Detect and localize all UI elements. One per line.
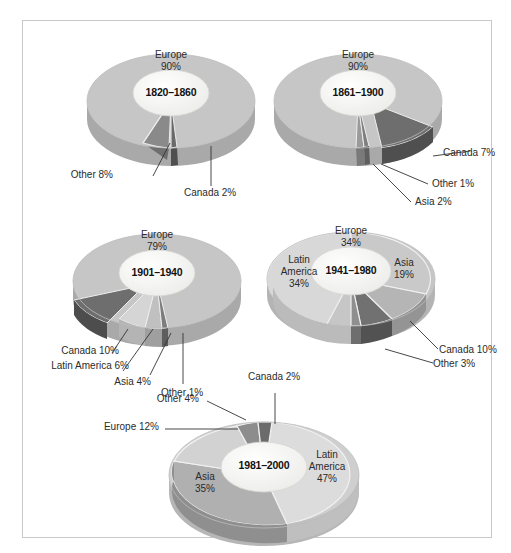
slice-label-europe-name-3: Europe	[141, 229, 173, 240]
slice-label-latin-l2-5: America	[309, 461, 346, 472]
pie-period-label-5: 1981–2000	[222, 459, 306, 471]
slice-label-europe-2: Europe 90%	[324, 49, 392, 73]
slice-label-canada-2: Canada 7%	[443, 147, 495, 159]
slice-label-europe-4: Europe 34%	[317, 225, 385, 249]
pie-period-label-3: 1901–1940	[119, 266, 195, 278]
slice-label-canada-4: Canada 10%	[439, 344, 497, 356]
slice-label-latin-l1-5: Latin	[316, 449, 338, 460]
slice-label-canada-1: Canada 2%	[184, 187, 236, 199]
slice-label-other-2: Other 1%	[432, 178, 474, 190]
slice-label-asia-5: Asia 35%	[181, 471, 229, 495]
slice-label-latin-america-4: Latin America 34%	[271, 254, 327, 290]
pie-side-latin-america	[327, 324, 351, 344]
figure-frame: 1820–1860 Europe 90% Other 8% Canada 2%	[22, 20, 492, 538]
slice-label-europe-pct-4: 34%	[341, 237, 361, 248]
slice-label-asia-2: Asia 2%	[415, 196, 452, 208]
slice-label-other-4: Other 3%	[433, 358, 475, 370]
slice-label-europe-5: Europe 12%	[63, 421, 159, 433]
slice-label-europe-pct-1: 90%	[161, 61, 181, 72]
slice-label-asia-name-4: Asia	[394, 257, 413, 268]
slice-label-latin-pct-4: 34%	[289, 278, 309, 289]
slice-label-europe-pct-2: 90%	[348, 61, 368, 72]
figure-page: 1820–1860 Europe 90% Other 8% Canada 2%	[0, 0, 511, 553]
slice-label-latin-l2-4: America	[281, 266, 318, 277]
slice-label-latin-pct-5: 47%	[317, 473, 337, 484]
slice-label-latin-america-3: Latin America 6%	[23, 360, 129, 372]
slice-label-europe-name-4: Europe	[335, 225, 367, 236]
slice-label-canada-3: Canada 10%	[23, 345, 119, 357]
slice-label-europe-1: Europe 90%	[137, 49, 205, 73]
pie-period-label-1: 1820–1860	[133, 86, 209, 98]
slice-label-latin-america-5: Latin America 47%	[296, 449, 358, 485]
pie-period-label-2: 1861–1900	[320, 86, 396, 98]
leader-lines-chart-2	[323, 126, 503, 221]
slice-label-europe-name-1: Europe	[155, 49, 187, 60]
slice-label-canada-5: Canada 2%	[248, 371, 300, 383]
slice-label-asia-name-5: Asia	[195, 471, 214, 482]
leader-lines-chart-4	[353, 306, 503, 376]
slice-label-europe-name-2: Europe	[342, 49, 374, 60]
slice-label-other-5: Other 4%	[103, 393, 199, 405]
slice-label-latin-l1-4: Latin	[288, 254, 310, 265]
slice-label-europe-pct-3: 79%	[147, 241, 167, 252]
slice-label-asia-pct-5: 35%	[195, 483, 215, 494]
slice-label-asia-pct-4: 19%	[394, 269, 414, 280]
slice-label-europe-3: Europe 79%	[123, 229, 191, 253]
slice-label-other-1: Other 8%	[31, 169, 113, 181]
slice-label-asia-4: Asia 19%	[381, 257, 427, 281]
